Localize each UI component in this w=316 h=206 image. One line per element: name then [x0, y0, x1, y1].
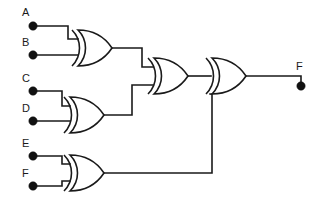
xor-gate-5-body	[212, 58, 246, 94]
xor-gate-1-arc	[72, 30, 80, 66]
xor-gate-4[interactable]	[148, 58, 188, 94]
wire-xor2-to-xor4	[104, 85, 153, 115]
input-label-c: C	[22, 72, 30, 84]
input-terminal-e[interactable]	[29, 152, 37, 160]
xor-gate-5[interactable]	[206, 58, 246, 94]
logic-circuit-diagram: A B C D E F F	[0, 0, 316, 206]
xor-gate-2-arc	[64, 97, 72, 133]
input-label-e: E	[22, 137, 29, 149]
wire-input-e	[33, 156, 70, 164]
wire-input-f	[33, 181, 70, 186]
xor-gate-4-arc	[148, 58, 156, 94]
input-label-f: F	[22, 167, 29, 179]
xor-gate-1[interactable]	[72, 30, 112, 66]
output-terminal-f[interactable]	[297, 82, 305, 90]
input-terminal-group	[29, 22, 37, 190]
xor-gate-4-body	[154, 58, 188, 94]
input-label-a: A	[22, 6, 30, 18]
input-terminal-c[interactable]	[29, 87, 37, 95]
circuit-canvas: A B C D E F F	[0, 0, 316, 206]
xor-gate-2-body	[70, 97, 104, 133]
input-label-d: D	[22, 102, 30, 114]
xor-gate-3-arc	[64, 155, 72, 191]
xor-gate-1-body	[78, 30, 112, 66]
input-terminal-d[interactable]	[29, 117, 37, 125]
xor-gate-3[interactable]	[64, 155, 104, 191]
xor-gate-3-body	[70, 155, 104, 191]
input-terminal-b[interactable]	[29, 51, 37, 59]
wire-xor5-to-output	[246, 76, 301, 86]
input-terminal-f[interactable]	[29, 182, 37, 190]
wire-xor1-to-xor4	[112, 48, 153, 67]
wire-xor3-to-xor5	[104, 94, 212, 173]
wire-input-a	[33, 26, 78, 39]
wire-group	[33, 26, 301, 186]
input-terminal-a[interactable]	[29, 22, 37, 30]
input-label-b: B	[22, 36, 29, 48]
output-label-f: F	[296, 60, 303, 72]
xor-gate-2[interactable]	[64, 97, 104, 133]
